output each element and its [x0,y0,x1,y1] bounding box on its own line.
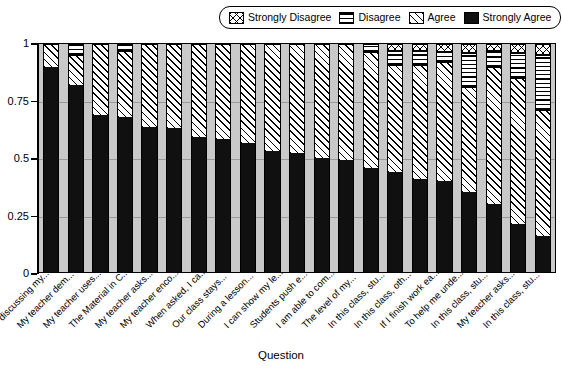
diagonal-hatch-icon [409,12,424,24]
segment-strongly-agree [290,153,304,272]
stacked-bar[interactable] [486,44,502,272]
stacked-bar[interactable] [264,44,280,272]
stacked-bar[interactable] [92,44,108,272]
segment-agree [388,65,402,172]
segment-agree [118,51,132,117]
bar-slot [137,44,162,272]
segment-agree [315,44,329,158]
segment-strongly-agree [364,168,378,272]
stacked-bar[interactable] [535,44,551,272]
stacked-bar[interactable] [436,44,452,272]
segment-agree [167,44,181,128]
y-axis-tick-label: 0.25 [8,210,29,221]
stacked-bar[interactable] [461,44,477,272]
bar-slot [186,44,211,272]
bar-slot [211,44,236,272]
segment-agree [413,65,427,179]
bar-slot [531,44,556,272]
segment-disagree [364,44,378,52]
segment-strongly-agree [487,204,501,272]
segment-disagree [69,44,83,55]
stacked-bar[interactable] [43,44,59,272]
segment-agree [339,44,353,160]
segment-strongly-disagree [536,44,550,55]
bar-slot [457,44,482,272]
bar-slot [359,44,384,272]
segment-strongly-agree [315,158,329,272]
stacked-bar[interactable] [240,44,256,272]
stacked-bar-chart: Strongly DisagreeDisagreeAgreeStrongly A… [0,0,562,370]
stacked-bar[interactable] [166,44,182,272]
stacked-bar[interactable] [289,44,305,272]
segment-strongly-disagree [413,44,427,51]
segment-agree [216,44,230,139]
segment-strongly-agree [44,67,58,272]
segment-strongly-agree [437,181,451,272]
segment-agree [44,44,58,67]
stacked-bar[interactable] [191,44,207,272]
stacked-bar[interactable] [510,44,526,272]
segment-agree [487,67,501,204]
y-axis-tick-label: 0 [23,268,29,279]
x-axis-title: Question [0,349,562,361]
bar-slot [39,44,64,272]
segment-strongly-agree [142,127,156,272]
stacked-bar[interactable] [215,44,231,272]
segment-strongly-agree [69,85,83,272]
segment-agree [511,78,525,224]
stacked-bar[interactable] [363,44,379,272]
bar-slot [113,44,138,272]
segment-strongly-disagree [437,44,451,52]
bar-slot [64,44,89,272]
stacked-bar[interactable] [117,44,133,272]
x-label-slot: In this class, stu... [530,275,556,345]
chart-legend: Strongly DisagreeDisagreeAgreeStrongly A… [219,6,561,29]
stacked-bar[interactable] [141,44,157,272]
bar-slot [285,44,310,272]
stacked-bar[interactable] [68,44,84,272]
segment-strongly-disagree [462,44,476,53]
segment-agree [364,52,378,168]
plot-area [38,43,556,273]
horizontal-lines-icon [339,12,354,24]
segment-agree [437,62,451,181]
legend-item-disagree: Disagree [339,12,400,24]
segment-strongly-agree [388,172,402,272]
bar-slot [383,44,408,272]
segment-strongly-agree [167,128,181,272]
y-axis-tick-label: 1 [23,38,29,49]
segment-strongly-agree [118,117,132,272]
stacked-bar[interactable] [338,44,354,272]
segment-strongly-agree [536,236,550,272]
solid-black-icon [464,12,479,24]
y-axis-tick-mark [31,158,37,160]
legend-item-strongly-agree: Strongly Agree [464,12,552,24]
segment-strongly-agree [413,179,427,272]
y-axis-tick-label: 0.5 [14,153,29,164]
legend-item-label: Strongly Disagree [248,12,331,23]
bar-slot [88,44,113,272]
segment-disagree [388,51,402,65]
segment-strongly-disagree [388,44,402,51]
segment-strongly-agree [192,137,206,272]
segment-strongly-agree [216,139,230,272]
bar-slot [309,44,334,272]
segment-strongly-agree [265,151,279,272]
stacked-bar[interactable] [387,44,403,272]
legend-item-label: Strongly Agree [483,12,552,23]
segment-disagree [487,51,501,67]
y-axis-tick-mark [31,273,37,275]
bar-slot [408,44,433,272]
segment-agree [192,44,206,137]
legend-item-agree: Agree [409,12,456,24]
segment-strongly-agree [462,192,476,272]
bar-slot [162,44,187,272]
stacked-bar[interactable] [412,44,428,272]
y-axis-tick-mark [31,216,37,218]
stacked-bar[interactable] [314,44,330,272]
segment-disagree [462,53,476,87]
segment-disagree [536,55,550,110]
legend-item-label: Disagree [358,12,400,23]
bar-slot [236,44,261,272]
legend-item-label: Agree [428,12,456,23]
